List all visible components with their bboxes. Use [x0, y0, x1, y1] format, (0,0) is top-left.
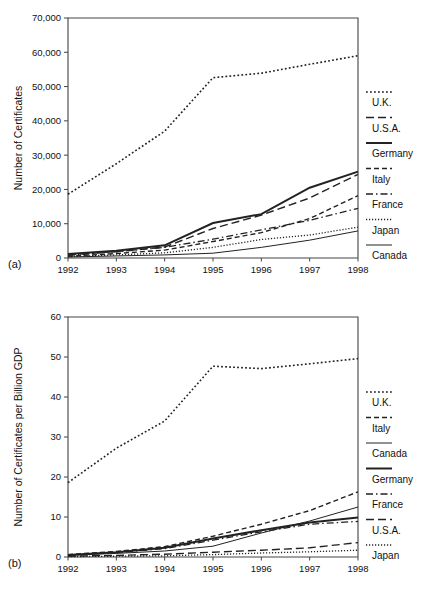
series-line-italy [68, 196, 358, 257]
x-axis-tick-label: 1998 [347, 563, 368, 574]
series-line-u-k [68, 359, 358, 483]
y-axis-tick-label: 50,000 [32, 81, 61, 92]
x-axis-tick-label: 1997 [299, 264, 320, 275]
legend-label-italy: Italy [372, 174, 390, 185]
x-axis-tick-label: 1995 [202, 264, 223, 275]
y-axis-tick-label: 10 [50, 511, 61, 522]
certificates-count-line-chart: 010,00020,00030,00040,00050,00060,00070,… [0, 0, 440, 297]
chart-panel-a: 010,00020,00030,00040,00050,00060,00070,… [0, 0, 440, 297]
series-line-italy [68, 492, 358, 555]
legend-label-japan: Japan [372, 225, 399, 236]
x-axis-tick-label: 1993 [106, 264, 127, 275]
legend-label-u-s-a: U.S.A. [372, 123, 401, 134]
x-axis-tick-label: 1996 [251, 563, 272, 574]
legend-label-canada: Canada [372, 250, 407, 261]
y-axis-tick-label: 20 [50, 471, 61, 482]
y-axis-tick-label: 40 [50, 391, 61, 402]
y-axis-tick-label: 0 [56, 551, 61, 562]
legend-label-u-k: U.K. [372, 397, 391, 408]
plot-frame [68, 18, 358, 258]
x-axis-tick-label: 1995 [202, 563, 223, 574]
panel-label-b: (b) [8, 557, 21, 569]
certificates-per-gdp-line-chart: 0102030405060199219931994199519961997199… [0, 297, 440, 593]
legend-label-italy: Italy [372, 423, 390, 434]
y-axis-tick-label: 30,000 [32, 150, 61, 161]
y-axis-tick-label: 10,000 [32, 218, 61, 229]
y-axis-tick-label: 70,000 [32, 12, 61, 23]
y-axis-title: Number of Certificates [12, 86, 24, 190]
x-axis-tick-label: 1992 [57, 563, 78, 574]
legend-label-germany: Germany [372, 148, 413, 159]
series-line-canada [68, 231, 358, 257]
y-axis-title: Number of Certificates per Billion GDP [12, 347, 24, 526]
legend-label-france: France [372, 199, 404, 210]
plot-frame [68, 317, 358, 557]
y-axis-tick-label: 50 [50, 351, 61, 362]
chart-panel-b: 0102030405060199219931994199519961997199… [0, 297, 440, 593]
x-axis-tick-label: 1993 [106, 563, 127, 574]
series-line-canada [68, 507, 358, 555]
x-axis-tick-label: 1994 [154, 563, 175, 574]
x-axis-tick-label: 1998 [347, 264, 368, 275]
legend-label-canada: Canada [372, 448, 407, 459]
panel-label-a: (a) [8, 258, 21, 270]
y-axis-tick-label: 40,000 [32, 115, 61, 126]
legend-label-u-s-a: U.S.A. [372, 525, 401, 536]
legend-label-france: France [372, 499, 404, 510]
y-axis-tick-label: 0 [56, 252, 61, 263]
x-axis-tick-label: 1997 [299, 563, 320, 574]
x-axis-tick-label: 1992 [57, 264, 78, 275]
x-axis-tick-label: 1994 [154, 264, 175, 275]
series-line-u-k [68, 56, 358, 195]
y-axis-tick-label: 30 [50, 431, 61, 442]
y-axis-tick-label: 20,000 [32, 184, 61, 195]
x-axis-tick-label: 1996 [251, 264, 272, 275]
legend-label-japan: Japan [372, 550, 399, 561]
y-axis-tick-label: 60,000 [32, 47, 61, 58]
y-axis-tick-label: 60 [50, 311, 61, 322]
series-line-france [68, 208, 358, 255]
legend-label-u-k: U.K. [372, 97, 391, 108]
legend-label-germany: Germany [372, 474, 413, 485]
